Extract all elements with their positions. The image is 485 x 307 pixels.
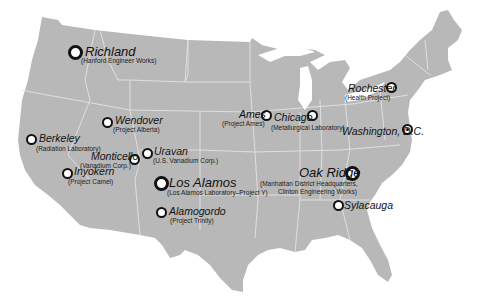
site-subtitle: (Hanford Engineer Works)	[81, 57, 156, 64]
site-subtitle: (Los Alamos Laboratory–Project Y)	[167, 189, 268, 196]
site-subtitle: (Project Alberta)	[113, 126, 160, 133]
site-subtitle: (Project Camel)	[68, 178, 113, 185]
site-name: Uravan	[154, 146, 188, 157]
site-name: Wendover	[115, 115, 163, 126]
site-marker-icon	[156, 207, 167, 218]
site-marker-icon	[142, 148, 153, 159]
site-subtitle: (Manhattan District Headquarters,	[260, 180, 358, 187]
site-name: Los Alamos	[169, 176, 236, 190]
site-name: Alamogordo	[169, 206, 226, 217]
site-name: Oak Ridge	[299, 166, 360, 180]
site-marker-icon	[102, 117, 113, 128]
site-name: Monticello	[91, 151, 138, 162]
site-subtitle: (Vanadium Corp.)	[80, 162, 131, 169]
site-subtitle-line2: Clinton Engineering Works)	[278, 188, 357, 195]
site-marker-icon	[26, 134, 37, 145]
site-name: Chicago	[274, 112, 313, 123]
site-subtitle: (Project Ames)	[222, 120, 265, 127]
site-subtitle: (Metallurgical Laboratory)	[271, 124, 345, 131]
site-name: Berkeley	[39, 133, 80, 144]
site-subtitle: (Project Trinity)	[170, 217, 214, 224]
site-name: Sylacauga	[344, 200, 393, 211]
site-subtitle: (Health Project)	[345, 94, 390, 101]
site-name: Ames	[239, 109, 266, 120]
site-name: Rochester	[348, 83, 396, 94]
site-name: Washington, D.C.	[342, 126, 424, 137]
site-marker-icon	[333, 200, 344, 211]
site-subtitle: (U.S. Vanadium Corp.)	[153, 157, 218, 164]
